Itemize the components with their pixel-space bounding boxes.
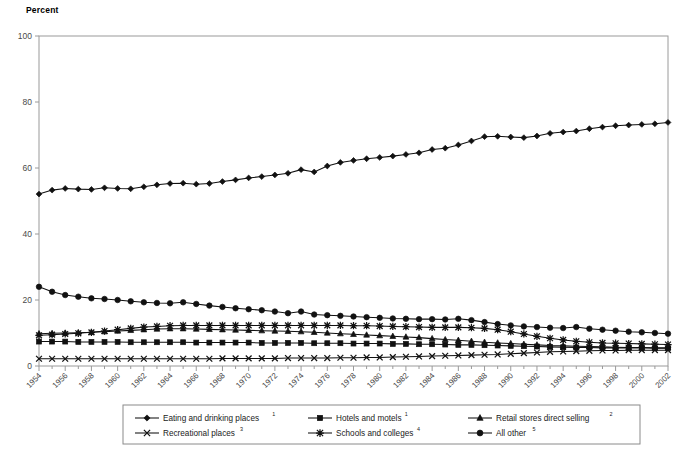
data-point-marker xyxy=(442,317,448,323)
data-point-marker xyxy=(62,330,69,337)
data-point-marker xyxy=(272,340,277,345)
data-point-marker xyxy=(62,186,68,192)
data-point-marker xyxy=(233,177,239,183)
data-point-marker xyxy=(390,341,395,346)
data-point-marker xyxy=(456,316,462,322)
x-axis-tick-label: 1964 xyxy=(156,371,175,390)
data-point-marker xyxy=(390,316,396,322)
data-point-marker xyxy=(37,339,42,344)
data-point-marker xyxy=(377,341,382,346)
data-point-marker xyxy=(665,120,671,126)
data-point-marker xyxy=(613,123,619,129)
data-point-marker xyxy=(477,430,483,436)
data-point-marker xyxy=(271,322,278,329)
data-point-marker xyxy=(416,150,422,156)
x-axis-tick-label: 1976 xyxy=(313,371,332,390)
data-point-marker xyxy=(246,306,252,312)
data-point-marker xyxy=(390,153,396,159)
data-point-marker xyxy=(167,181,173,187)
data-point-marker xyxy=(417,342,422,347)
data-point-marker xyxy=(495,321,501,327)
data-point-marker xyxy=(560,325,566,331)
data-point-marker xyxy=(521,135,527,141)
legend-footnote-marker: 1 xyxy=(405,411,408,417)
series-diamond xyxy=(36,120,671,197)
data-point-marker xyxy=(364,156,370,162)
data-point-marker xyxy=(284,322,291,329)
data-point-marker xyxy=(219,322,226,329)
data-point-marker xyxy=(507,328,514,335)
data-point-marker xyxy=(534,133,540,139)
data-point-marker xyxy=(442,324,449,331)
data-point-marker xyxy=(311,169,317,175)
data-point-marker xyxy=(62,292,68,298)
data-point-marker xyxy=(75,186,81,192)
data-point-marker xyxy=(351,158,357,164)
data-point-marker xyxy=(180,300,186,306)
data-point-marker xyxy=(573,128,579,134)
y-axis-tick-label: 40 xyxy=(23,229,33,239)
data-point-marker xyxy=(560,336,567,343)
data-point-marker xyxy=(520,330,527,337)
data-point-marker xyxy=(127,325,134,332)
data-point-marker xyxy=(443,342,448,347)
data-point-marker xyxy=(258,322,265,329)
x-axis-tick-label: 2002 xyxy=(653,371,672,390)
data-point-marker xyxy=(154,300,160,306)
data-point-marker xyxy=(534,324,540,330)
data-point-marker xyxy=(652,330,658,336)
data-point-marker xyxy=(102,339,107,344)
legend-label: All other xyxy=(496,429,526,438)
data-point-marker xyxy=(141,340,146,345)
data-point-marker xyxy=(50,339,55,344)
data-point-marker xyxy=(167,301,173,307)
x-axis-tick-label: 1978 xyxy=(339,371,358,390)
y-axis-tick-label: 60 xyxy=(23,163,33,173)
data-point-marker xyxy=(128,299,134,305)
data-point-marker xyxy=(638,340,645,347)
data-point-marker xyxy=(600,327,606,333)
data-point-marker xyxy=(482,319,488,325)
data-point-marker xyxy=(312,341,317,346)
data-point-marker xyxy=(337,322,344,329)
x-axis-tick-label: 1974 xyxy=(287,371,306,390)
x-axis-tick-label: 1998 xyxy=(601,371,620,390)
legend-box xyxy=(123,405,640,444)
data-point-marker xyxy=(376,322,383,329)
legend-label: Schools and colleges xyxy=(336,429,413,438)
data-point-marker xyxy=(364,314,370,320)
x-axis-tick-label: 1982 xyxy=(391,371,410,390)
data-point-marker xyxy=(259,307,265,313)
data-point-marker xyxy=(429,324,436,331)
data-point-marker xyxy=(128,186,134,192)
data-point-marker xyxy=(651,341,658,348)
data-point-marker xyxy=(430,342,435,347)
data-point-marker xyxy=(36,284,42,290)
data-point-marker xyxy=(63,339,68,344)
x-axis-tick-label: 1970 xyxy=(234,371,253,390)
data-point-marker xyxy=(416,316,422,322)
data-point-marker xyxy=(193,322,200,329)
data-point-marker xyxy=(140,323,147,330)
data-point-marker xyxy=(115,297,121,303)
data-point-marker xyxy=(141,184,147,190)
data-point-marker xyxy=(626,329,632,335)
data-point-marker xyxy=(469,138,475,144)
x-axis-tick-label: 2000 xyxy=(627,371,646,390)
data-point-marker xyxy=(88,329,95,336)
data-point-marker xyxy=(429,147,435,153)
legend-label: Retail stores direct selling xyxy=(496,414,590,423)
data-point-marker xyxy=(481,325,488,332)
data-point-marker xyxy=(600,124,606,130)
data-point-marker xyxy=(508,323,514,329)
data-point-marker xyxy=(612,340,619,347)
data-point-marker xyxy=(272,172,278,178)
data-point-marker xyxy=(180,180,186,186)
data-point-marker xyxy=(48,331,55,338)
data-point-marker xyxy=(206,181,212,187)
x-axis-tick-label: 1980 xyxy=(365,371,384,390)
x-axis-tick-label: 1996 xyxy=(575,371,594,390)
data-point-marker xyxy=(469,317,475,323)
data-point-marker xyxy=(547,130,553,136)
data-point-marker xyxy=(456,342,461,347)
